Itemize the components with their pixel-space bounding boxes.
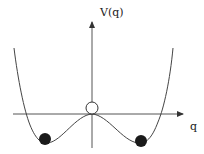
left-minimum-ball [39, 133, 51, 145]
right-minimum-ball [135, 135, 147, 147]
x-axis-label: q [190, 120, 197, 133]
y-axis-label: V(q) [99, 6, 124, 19]
double-well-diagram: V(q) q [0, 0, 204, 154]
potential-curve [14, 48, 173, 143]
unstable-equilibrium-marker [86, 102, 98, 114]
